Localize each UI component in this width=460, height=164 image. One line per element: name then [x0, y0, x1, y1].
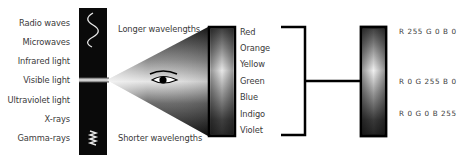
- color-label-blue: Blue: [240, 92, 258, 102]
- rgb-label-blue: R 0 G 0 B 255: [399, 109, 457, 119]
- diagram-graphics: [0, 0, 460, 164]
- longer-wavelengths-label: Longer wavelengths: [118, 24, 200, 34]
- shorter-wavelengths-label: Shorter wavelengths: [118, 133, 202, 143]
- color-label-green: Green: [240, 76, 265, 86]
- short-wave-icon: [90, 131, 96, 145]
- color-label-yellow: Yellow: [240, 59, 265, 69]
- color-label-orange: Orange: [240, 43, 270, 53]
- bracket-icon: [281, 27, 305, 135]
- color-label-violet: Violet: [240, 125, 263, 135]
- long-wave-icon: [88, 13, 99, 47]
- rgb-label-green: R 0 G 255 B 0: [399, 77, 457, 87]
- color-label-red: Red: [240, 27, 255, 37]
- rgb-label-red: R 255 G 0 B 0: [399, 27, 457, 37]
- color-label-indigo: Indigo: [240, 109, 265, 119]
